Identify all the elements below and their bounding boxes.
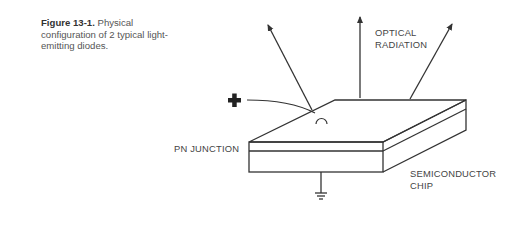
optical-radiation-label: OPTICAL RADIATION [375,27,427,50]
plus-icon [228,94,241,108]
arrow-left [268,25,312,110]
ground-icon [315,172,327,199]
chip-label-line2: CHIP [410,180,496,192]
pn-junction-label: PN JUNCTION [174,143,239,155]
contact-wire [247,100,327,124]
semiconductor-chip-shape [249,100,466,172]
optical-label-line1: OPTICAL [375,27,427,39]
semiconductor-chip-label: SEMICONDUCTOR CHIP [410,168,496,191]
chip-label-line1: SEMICONDUCTOR [410,168,496,180]
contact-dot-arc [316,119,327,124]
optical-label-line2: RADIATION [375,39,427,51]
